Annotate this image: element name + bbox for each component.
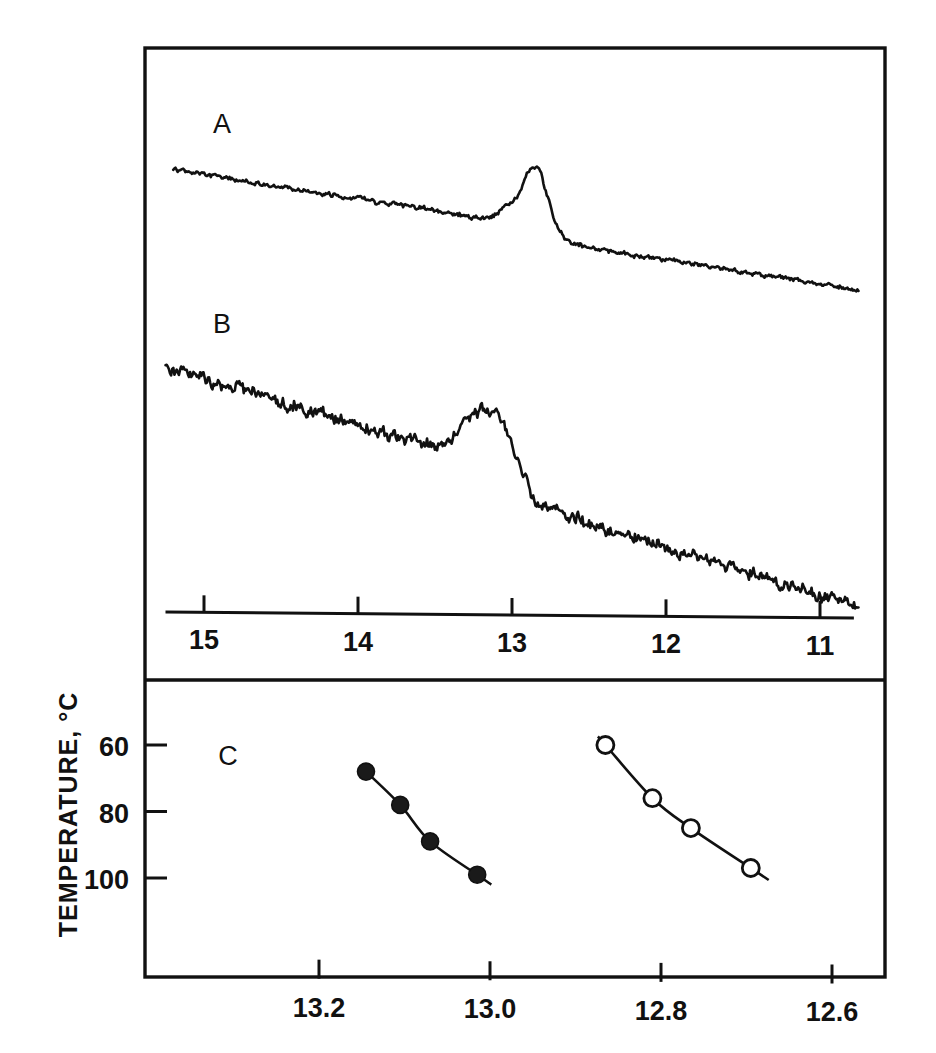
figure-container: 1514131211608010013.213.012.812.6ABC TEM…: [0, 0, 936, 1053]
data-point-filled-circle: [469, 866, 486, 883]
ppm-tick-label-11: 11: [806, 631, 835, 661]
ppm-tick-label-15: 15: [189, 625, 219, 655]
figure-frame: [145, 48, 885, 977]
ppm-tick-label-14: 14: [343, 627, 373, 657]
conc-tick-label-13.0: 13.0: [464, 994, 517, 1024]
temp-tick-label-60: 60: [99, 732, 129, 762]
y-axis-title: TEMPERATURE, °C: [54, 685, 83, 945]
ppm-axis-line: [166, 612, 854, 618]
panel-label-b: B: [213, 309, 231, 339]
conc-tick-label-12.8: 12.8: [635, 996, 688, 1026]
data-point-open-circle: [682, 820, 699, 837]
trace-spectrum-b: [166, 365, 859, 609]
temp-tick-label-100: 100: [84, 865, 129, 895]
ppm-tick-label-13: 13: [497, 628, 527, 658]
data-point-open-circle: [644, 790, 661, 807]
data-point-filled-circle: [422, 833, 439, 850]
trace-spectrum-a: [173, 167, 858, 292]
ppm-tick-label-12: 12: [651, 629, 681, 659]
curve-filled-circles: [361, 766, 492, 884]
data-point-filled-circle: [358, 763, 375, 780]
panel-label-c: C: [218, 741, 238, 771]
data-point-open-circle: [742, 860, 759, 877]
curve-open-circles: [598, 737, 769, 881]
data-point-filled-circle: [392, 796, 409, 813]
panel-label-a: A: [213, 109, 231, 139]
temp-tick-label-80: 80: [99, 799, 129, 829]
figure-svg: 1514131211608010013.213.012.812.6ABC: [0, 0, 936, 1053]
data-point-open-circle: [597, 737, 614, 754]
conc-tick-label-13.2: 13.2: [293, 993, 346, 1023]
conc-tick-label-12.6: 12.6: [806, 997, 859, 1027]
